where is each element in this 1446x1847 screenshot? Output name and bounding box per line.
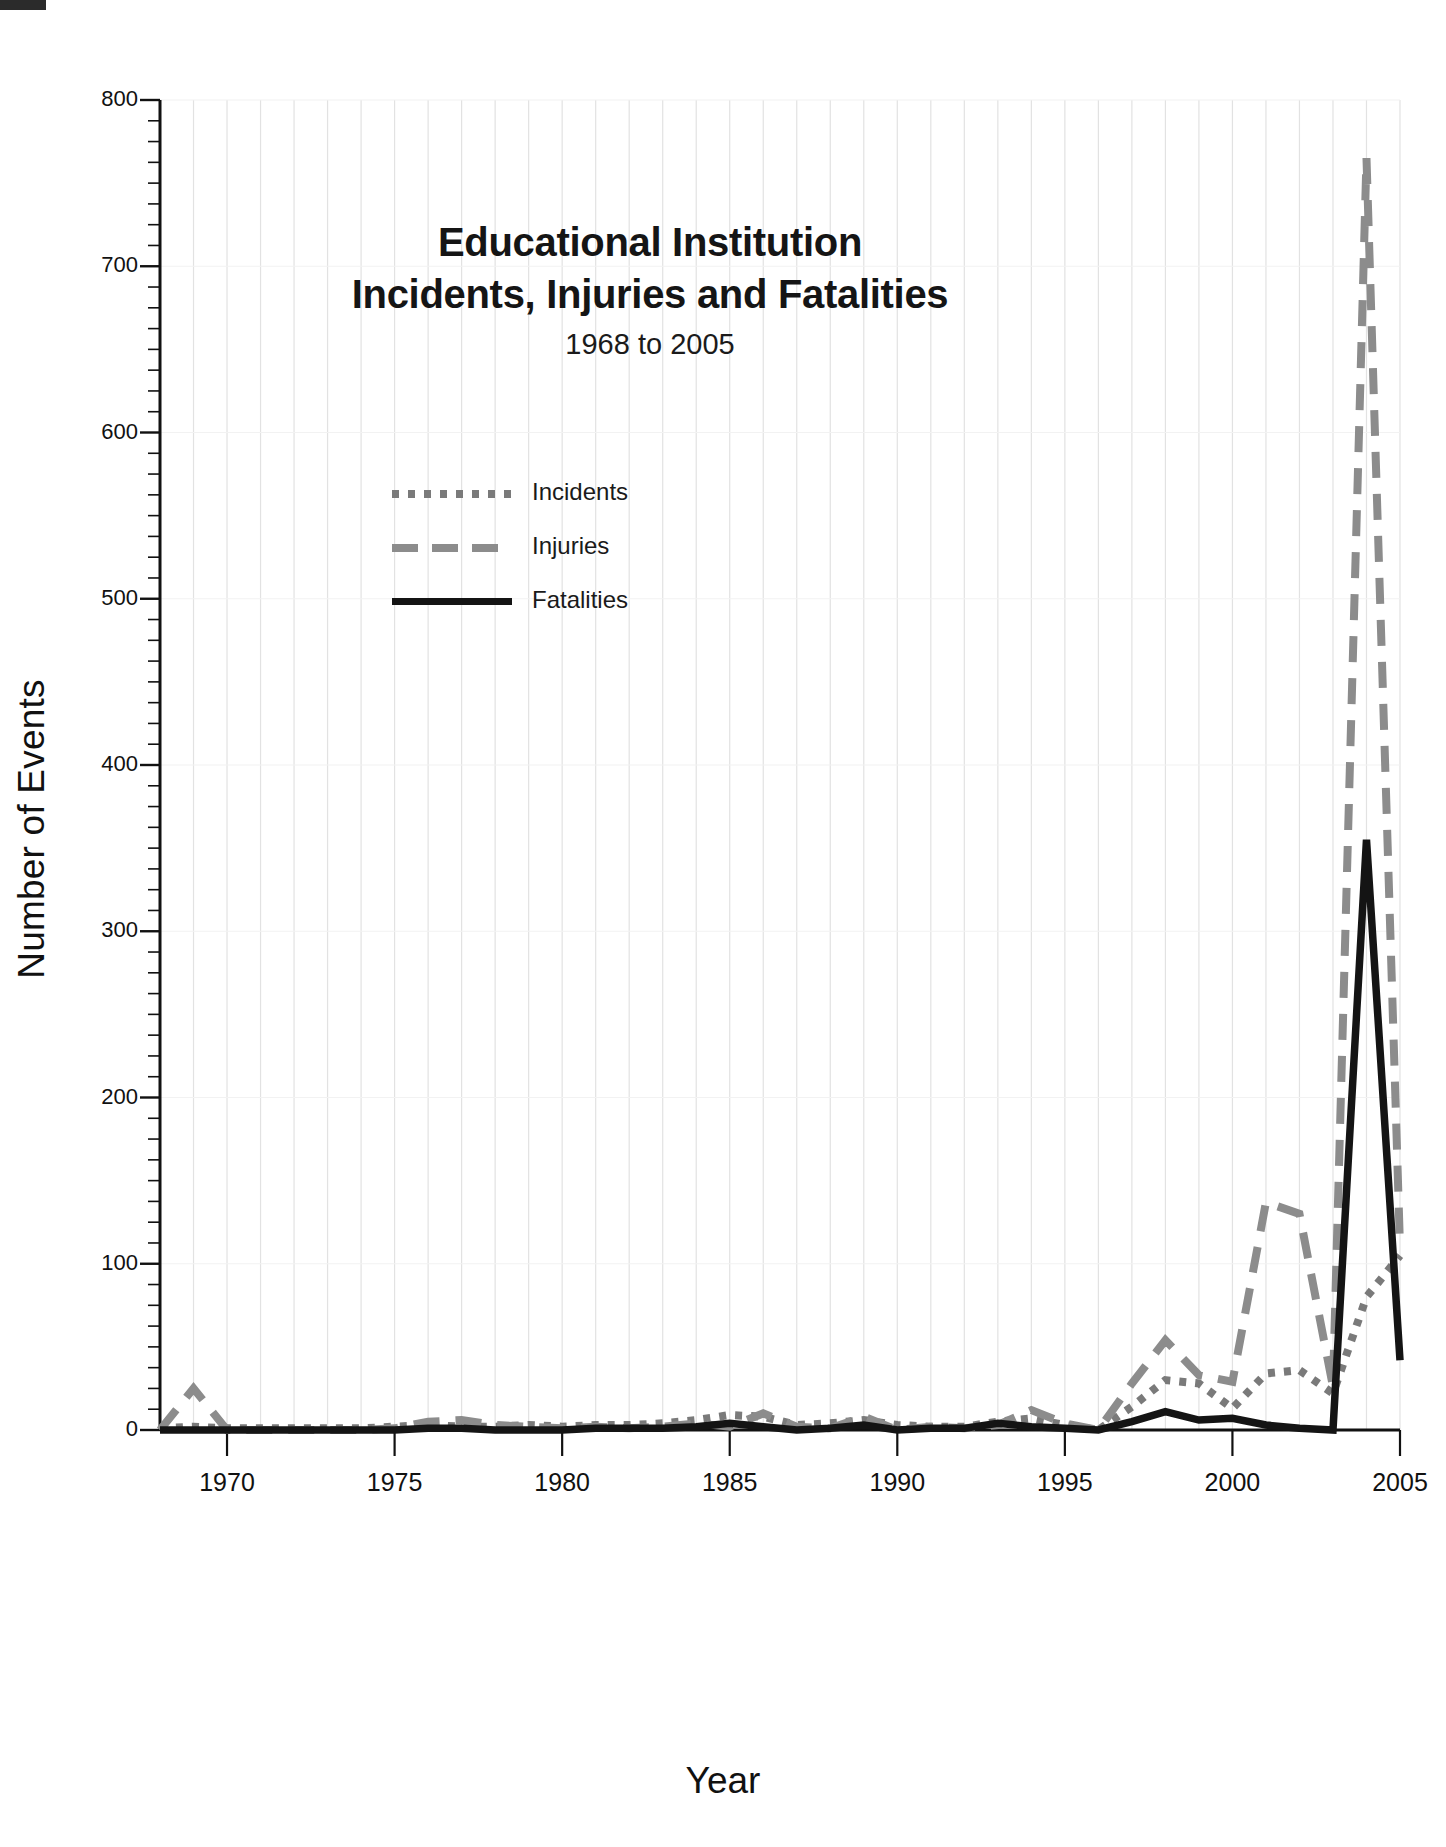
y-tick-label: 500 — [60, 585, 138, 611]
chart-legend: Incidents Injuries Fatalities — [392, 472, 692, 634]
x-tick-label: 2000 — [1172, 1468, 1292, 1497]
legend-item-fatalities: Fatalities — [392, 580, 692, 634]
legend-label-injuries: Injuries — [532, 532, 609, 560]
y-tick-label: 800 — [60, 86, 138, 112]
legend-item-incidents: Incidents — [392, 472, 692, 526]
y-tick-label: 700 — [60, 252, 138, 278]
y-axis-label: Number of Events — [11, 619, 53, 1039]
y-tick-label: 400 — [60, 751, 138, 777]
y-tick-label: 300 — [60, 917, 138, 943]
series-line-fatalities — [160, 840, 1400, 1430]
y-tick-label: 0 — [60, 1416, 138, 1442]
chart-title-line1: Educational Institution — [120, 216, 1180, 268]
legend-swatch-injuries — [392, 544, 512, 552]
x-tick-label: 1975 — [335, 1468, 455, 1497]
legend-swatch-incidents — [392, 490, 512, 498]
x-tick-label: 1990 — [837, 1468, 957, 1497]
x-tick-label: 1985 — [670, 1468, 790, 1497]
x-tick-label: 1995 — [1005, 1468, 1125, 1497]
x-tick-label: 2005 — [1340, 1468, 1446, 1497]
y-tick-label: 200 — [60, 1084, 138, 1110]
legend-item-injuries: Injuries — [392, 526, 692, 580]
legend-label-fatalities: Fatalities — [532, 586, 628, 614]
x-tick-label: 1970 — [167, 1468, 287, 1497]
chart-title: Educational Institution Incidents, Injur… — [120, 216, 1180, 368]
x-axis-label: Year — [0, 1760, 1446, 1802]
series-line-incidents — [160, 1255, 1400, 1430]
chart-subtitle: 1968 to 2005 — [120, 320, 1180, 368]
legend-swatch-fatalities — [392, 598, 512, 605]
y-tick-label: 600 — [60, 419, 138, 445]
chart-title-line2: Incidents, Injuries and Fatalities — [120, 268, 1180, 320]
x-axis-ticks — [227, 1430, 1400, 1456]
x-tick-label: 1980 — [502, 1468, 622, 1497]
y-tick-label: 100 — [60, 1250, 138, 1276]
legend-label-incidents: Incidents — [532, 478, 628, 506]
